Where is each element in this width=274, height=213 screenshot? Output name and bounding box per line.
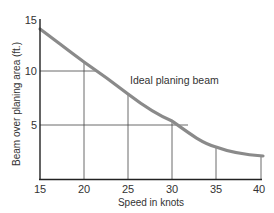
y-tick-5: 5: [31, 119, 37, 131]
x-axis-label: Speed in knots: [118, 197, 184, 208]
y-axis-label: Beam over planing area (ft.): [11, 42, 22, 166]
x-tick-40: 40: [253, 183, 265, 195]
x-tick-25: 25: [122, 183, 134, 195]
y-tick-10: 10: [25, 65, 37, 77]
x-tick-20: 20: [78, 183, 90, 195]
y-tick-15: 15: [25, 14, 37, 26]
x-tick-30: 30: [166, 183, 178, 195]
ideal-planing-beam-curve: [40, 29, 263, 156]
chart: 15 10 5 15 20 25 30 35 40 Speed in knots…: [0, 0, 274, 213]
curve-annotation: Ideal planing beam: [130, 74, 219, 86]
x-tick-35: 35: [210, 183, 222, 195]
x-tick-15: 15: [34, 183, 46, 195]
